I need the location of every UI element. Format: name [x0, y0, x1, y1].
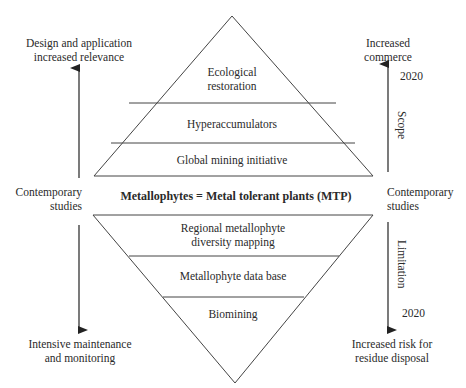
tier-hyperaccumulators: Hyperaccumulators: [187, 117, 277, 131]
tier-regional-diversity-mapping: Regional metallophyte diversity mapping: [181, 221, 285, 249]
scope-label: Scope: [396, 111, 408, 139]
label-line: studies: [387, 199, 453, 213]
label-line: Contemporary: [387, 185, 453, 199]
label-line: Contemporary: [14, 185, 82, 199]
right-top-year: 2020: [400, 69, 423, 83]
tier-label-line: restoration: [207, 79, 256, 93]
tier-biomining: Biomining: [208, 307, 257, 321]
label-line: Increased: [364, 36, 412, 50]
label-line: commerce: [364, 50, 412, 64]
left-middle-label: Contemporary studies: [14, 185, 82, 213]
tier-global-mining-initiative: Global mining initiative: [177, 153, 288, 167]
right-middle-label: Contemporary studies: [387, 185, 453, 213]
tier-label-line: Ecological: [207, 65, 256, 79]
tier-ecological-restoration: Ecological restoration: [207, 65, 256, 93]
label-line: Design and application: [26, 36, 132, 50]
label-line: studies: [14, 199, 82, 213]
label-line: residue disposal: [352, 351, 432, 365]
tier-metallophyte-database: Metallophyte data base: [180, 269, 287, 283]
right-bottom-label: Increased risk for residue disposal: [352, 337, 432, 365]
tier-label-line: diversity mapping: [181, 235, 285, 249]
label-line: Increased risk for: [352, 337, 432, 351]
right-top-label: Increased commerce: [364, 36, 412, 64]
diagram-title: Metallophytes = Metal tolerant plants (M…: [120, 189, 351, 203]
label-line: Intensive maintenance: [28, 337, 131, 351]
limitation-label: Limitation: [396, 240, 408, 289]
right-bottom-year: 2020: [402, 306, 425, 320]
label-line: increased relevance: [26, 50, 132, 64]
left-bottom-label: Intensive maintenance and monitoring: [28, 337, 131, 365]
left-top-label: Design and application increased relevan…: [26, 36, 132, 64]
tier-label-line: Regional metallophyte: [181, 221, 285, 235]
label-line: and monitoring: [28, 351, 131, 365]
upper-pyramid: [94, 16, 373, 176]
